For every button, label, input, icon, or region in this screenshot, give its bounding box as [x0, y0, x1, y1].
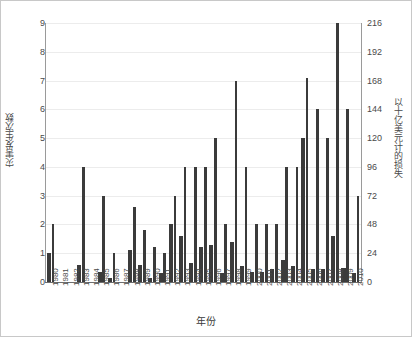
- chart-frame: 灾害发生次数 以十亿美元计的损失 年份 0123456789 024487296…: [0, 0, 412, 337]
- bar-group: [97, 23, 107, 282]
- y-axis-left-tick-label: 1: [15, 249, 45, 258]
- y-axis-right-tick-label: 96: [367, 163, 399, 172]
- bar-group: [117, 23, 127, 282]
- y-axis-left-tick-label: 5: [15, 134, 45, 143]
- left-axis-line: [45, 23, 46, 283]
- bar-group: [178, 23, 188, 282]
- y-axis-left-tick-label: 6: [15, 105, 45, 114]
- bar-group: [320, 23, 330, 282]
- x-axis-tick-label: 1994: [195, 268, 203, 286]
- right-axis-line: [361, 23, 362, 283]
- bar-group: [259, 23, 269, 282]
- bar-group: [300, 23, 310, 282]
- y-axis-right-tick-label: 48: [367, 220, 399, 229]
- bar-economic-loss: [82, 167, 85, 282]
- x-axis-tick-label: 1989: [144, 268, 152, 286]
- bar-group: [107, 23, 117, 282]
- x-axis-tick-label: 2007: [327, 268, 335, 286]
- bar-group: [341, 23, 351, 282]
- bar-economic-loss: [245, 167, 248, 282]
- bar-series-container: [45, 23, 362, 282]
- x-axis-tick-label: 2005: [306, 268, 314, 286]
- x-axis-tick-label: 1988: [134, 268, 142, 286]
- bar-group: [290, 23, 300, 282]
- x-axis-tick-label: 1991: [164, 268, 172, 286]
- x-axis-tick-label: 1999: [245, 268, 253, 286]
- x-axis-tick-label: 1982: [73, 268, 81, 286]
- x-axis-tick-label: 1992: [174, 268, 182, 286]
- x-axis-tick-label: 2004: [296, 268, 304, 286]
- x-axis-tick-label: 1981: [62, 268, 70, 286]
- bar-group: [249, 23, 259, 282]
- x-axis-tick-label: 2000: [256, 268, 264, 286]
- bar-group: [209, 23, 219, 282]
- bar-group: [148, 23, 158, 282]
- bar-group: [137, 23, 147, 282]
- bar-group: [198, 23, 208, 282]
- x-axis-tick-label: 2006: [316, 268, 324, 286]
- x-axis-tick-label: 2009: [347, 268, 355, 286]
- bar-economic-loss: [346, 109, 349, 282]
- bar-economic-loss: [184, 167, 187, 282]
- x-axis-tick-label: 2008: [337, 268, 345, 286]
- y-axis-left-tick-label: 8: [15, 48, 45, 57]
- x-axis-tick-label: 1998: [235, 268, 243, 286]
- y-axis-right-tick-label: 120: [367, 134, 399, 143]
- x-axis-tick-label: 1987: [123, 268, 131, 286]
- bar-group: [158, 23, 168, 282]
- bar-economic-loss: [214, 138, 217, 282]
- y-axis-left-tick-label: 2: [15, 220, 45, 229]
- x-axis-tick-label: 1995: [205, 268, 213, 286]
- y-axis-right-tick-label: 0: [367, 278, 399, 287]
- bar-economic-loss: [296, 167, 299, 282]
- bar-group: [76, 23, 86, 282]
- x-axis-tick-label: 1986: [113, 268, 121, 286]
- bar-economic-loss: [306, 78, 309, 282]
- bar-group: [66, 23, 76, 282]
- bar-group: [56, 23, 66, 282]
- bar-group: [188, 23, 198, 282]
- y-axis-left-tick-label: 0: [15, 278, 45, 287]
- bar-group: [331, 23, 341, 282]
- bar-group: [280, 23, 290, 282]
- x-axis-tick-label: 1980: [52, 268, 60, 286]
- y-axis-right-tick-label: 168: [367, 77, 399, 86]
- bar-group: [239, 23, 249, 282]
- y-axis-right-tick-label: 192: [367, 48, 399, 57]
- bar-group: [168, 23, 178, 282]
- bar-group: [219, 23, 229, 282]
- y-axis-right-tick-label: 24: [367, 249, 399, 258]
- x-axis-title: 年份: [1, 313, 411, 328]
- y-axis-right-tick-label: 144: [367, 105, 399, 114]
- y-axis-right-tick-label: 72: [367, 192, 399, 201]
- x-axis-tick-label: 1985: [103, 268, 111, 286]
- x-axis-tick-label: 2001: [266, 268, 274, 286]
- bar-economic-loss: [326, 138, 329, 282]
- bar-group: [87, 23, 97, 282]
- x-axis-tick-label: 2003: [286, 268, 294, 286]
- x-axis-tick-label: 1990: [154, 268, 162, 286]
- y-axis-right-tick-label: 216: [367, 19, 399, 28]
- bar-group: [46, 23, 56, 282]
- x-axis-tick-label: 2002: [276, 268, 284, 286]
- x-axis-tick-label: 2010: [357, 268, 365, 286]
- bar-group: [127, 23, 137, 282]
- y-axis-left-tick-label: 7: [15, 77, 45, 86]
- bar-economic-loss: [316, 109, 319, 282]
- bar-economic-loss: [194, 167, 197, 282]
- bar-group: [351, 23, 361, 282]
- bar-group: [270, 23, 280, 282]
- x-axis-tick-label: 1993: [184, 268, 192, 286]
- bar-economic-loss: [204, 167, 207, 282]
- bar-economic-loss: [285, 167, 288, 282]
- bar-group: [229, 23, 239, 282]
- bar-economic-loss: [336, 23, 339, 282]
- x-axis-tick-label: 1984: [93, 268, 101, 286]
- x-axis-tick-label: 1997: [225, 268, 233, 286]
- bar-group: [310, 23, 320, 282]
- plot-area: [45, 23, 362, 283]
- x-axis-tick-label: 1996: [215, 268, 223, 286]
- bar-economic-loss: [235, 81, 238, 282]
- x-axis-tick-label: 1983: [83, 268, 91, 286]
- y-axis-left-tick-label: 4: [15, 163, 45, 172]
